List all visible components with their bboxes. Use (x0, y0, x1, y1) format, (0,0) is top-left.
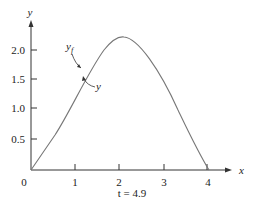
time-annotation: t = 4.9 (118, 187, 147, 199)
chart: 0.5 1.0 1.5 2.0 0 1 2 3 4 y x t = 4.9 yf… (0, 0, 256, 206)
curve-y (31, 37, 209, 170)
x-axis-label: x (238, 164, 244, 176)
x-ticks (75, 164, 207, 170)
x-axis-arrow-icon (225, 168, 232, 173)
y-label: y (95, 80, 101, 92)
x-tick-label: 4 (205, 176, 211, 188)
x-tick-label: 1 (72, 176, 78, 188)
y-tick-label: 1.5 (11, 73, 25, 85)
y-tick-label: 1.0 (11, 102, 25, 114)
yf-label: yf (65, 40, 75, 55)
y-axis-label: y (27, 6, 33, 18)
y-tick-label: 2.0 (11, 44, 25, 56)
x-tick-label: 3 (161, 176, 167, 188)
y-ticks (31, 50, 37, 139)
origin-label: 0 (21, 176, 27, 188)
y-axis-arrow-icon (29, 20, 34, 27)
y-tick-label: 0.5 (11, 133, 25, 145)
